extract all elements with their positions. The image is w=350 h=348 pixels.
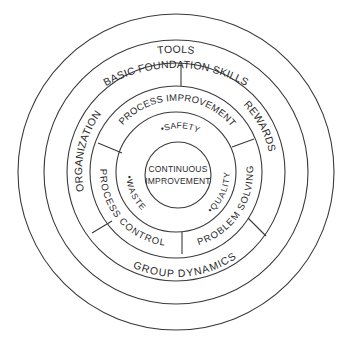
divider-group-rewards: [248, 218, 266, 236]
label-group-dynamics: GROUP DYNAMICS: [132, 250, 238, 279]
divider-org-group: [92, 221, 112, 233]
divider-org-top: [98, 143, 122, 153]
label-tools: TOOLS: [157, 43, 196, 56]
label-organization: ORGANIZATION: [72, 108, 103, 193]
label-basic-foundation-skills: BASIC FOUNDATION SKILLS: [101, 58, 251, 88]
label-rewards: REWARDS: [242, 98, 279, 153]
center-label-line1: CONTINUOUS: [148, 164, 207, 174]
center-label-line2: IMPROVEMENT: [145, 176, 210, 186]
ring-center: [145, 142, 211, 208]
divider-pi-ps: [232, 139, 254, 147]
label-safety: •SAFETY: [159, 120, 202, 135]
continuous-improvement-diagram: BASIC FOUNDATION SKILLS TOOLS ORGANIZATI…: [0, 0, 350, 348]
